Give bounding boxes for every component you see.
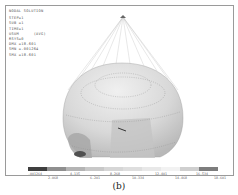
- contour-legend-bar: [28, 167, 218, 171]
- figure-caption: (b): [0, 181, 238, 191]
- min-displacement-zone: [74, 151, 86, 157]
- legend-swatch-8: [161, 167, 180, 171]
- legend-swatch-6: [123, 167, 142, 171]
- legend-label: .001264: [28, 172, 42, 176]
- legend-label: 18.601: [214, 176, 226, 180]
- legend-label: 10.334: [132, 176, 144, 180]
- legend-label: 16.534: [196, 172, 208, 176]
- legend-label: 12.401: [155, 172, 167, 176]
- legend-swatch-1: [28, 167, 47, 171]
- dome-model: [0, 0, 238, 195]
- legend-swatch-3: [66, 167, 85, 171]
- legend-label: 6.201: [90, 176, 100, 180]
- legend-swatch-5: [104, 167, 123, 171]
- legend-label: 8.268: [110, 172, 120, 176]
- legend-label: 14.468: [175, 176, 187, 180]
- legend-swatch-2: [47, 167, 66, 171]
- legend-swatch-4: [85, 167, 104, 171]
- legend-swatch-7: [142, 167, 161, 171]
- legend-swatch-9: [180, 167, 199, 171]
- legend-label: 4.135: [70, 172, 80, 176]
- legend-swatch-10: [199, 167, 218, 171]
- legend-label: 2.068: [48, 176, 58, 180]
- contour-band-mid: [110, 118, 155, 158]
